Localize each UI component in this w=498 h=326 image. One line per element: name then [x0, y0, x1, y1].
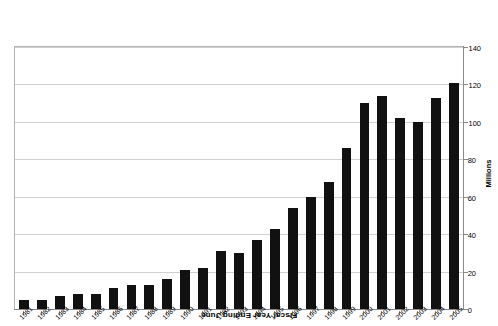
y-axis-title: Millions: [484, 144, 493, 204]
y-tick-label: 60: [468, 193, 476, 202]
y-tick-label: 140: [468, 44, 481, 53]
bar: [342, 148, 352, 309]
y-tick-label: 20: [468, 268, 476, 277]
y-tick-mark: [464, 122, 468, 123]
chart-screenshot: Fiscal Year Ending June 0204060801001201…: [0, 0, 498, 326]
x-axis-labels: 2005200420032002200120001999199819971996…: [15, 310, 463, 326]
bar: [270, 229, 280, 309]
bars-layer: [15, 47, 463, 309]
bar: [324, 182, 334, 309]
bar: [413, 122, 423, 309]
y-tick-label: 120: [468, 81, 481, 90]
y-tick-label: 80: [468, 156, 476, 165]
bar: [288, 208, 298, 309]
y-tick-mark: [464, 47, 468, 48]
y-tick-mark: [464, 159, 468, 160]
bar: [252, 240, 262, 309]
bar: [198, 268, 208, 309]
bar: [234, 253, 244, 309]
bar: [449, 83, 459, 309]
bar: [377, 96, 387, 309]
bar: [180, 270, 190, 309]
bar: [306, 197, 316, 309]
bar: [395, 118, 405, 309]
y-tick-mark: [464, 84, 468, 85]
rotated-chart-container: Fiscal Year Ending June 0204060801001201…: [0, 0, 498, 326]
bar: [360, 103, 370, 309]
y-tick-label: 40: [468, 231, 476, 240]
bar: [216, 251, 226, 309]
y-tick-mark: [464, 234, 468, 235]
y-tick-mark: [464, 197, 468, 198]
bar-chart: Fiscal Year Ending June 0204060801001201…: [0, 0, 498, 326]
y-tick-mark: [464, 272, 468, 273]
y-axis-line: [463, 46, 464, 310]
y-tick-label: 100: [468, 118, 481, 127]
bar: [431, 98, 441, 309]
y-tick-label: 0: [468, 306, 472, 315]
